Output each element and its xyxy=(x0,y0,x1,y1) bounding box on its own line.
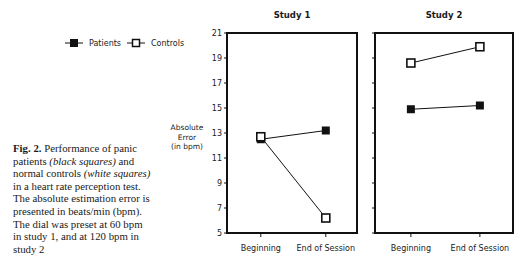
y-tick-label: 9 xyxy=(217,179,222,188)
open-square-marker-icon xyxy=(476,43,484,51)
x-tick-label: Beginning xyxy=(241,244,281,253)
y-tick-label: 13 xyxy=(212,129,222,138)
filled-square-marker-icon xyxy=(476,102,484,110)
plot-frame xyxy=(375,33,513,233)
series-line-patients xyxy=(411,106,480,110)
y-tick-label: 21 xyxy=(212,29,222,38)
y-tick-label: 11 xyxy=(212,154,222,163)
y-tick-label: 19 xyxy=(212,54,222,63)
charts-canvas: Study 1579111315171921BeginningEnd of Se… xyxy=(0,0,528,264)
open-square-marker-icon xyxy=(322,214,330,222)
plot-frame xyxy=(227,33,357,233)
chart-title: Study 2 xyxy=(426,10,463,20)
chart-study-1: Study 1579111315171921BeginningEnd of Se… xyxy=(212,10,357,253)
chart-title: Study 1 xyxy=(274,10,311,20)
y-tick-label: 15 xyxy=(212,104,222,113)
x-tick-label: Beginning xyxy=(391,244,431,253)
y-tick-label: 17 xyxy=(212,79,222,88)
series-line-patients xyxy=(261,131,326,140)
series-line-controls xyxy=(261,137,326,218)
open-square-marker-icon xyxy=(407,59,415,67)
chart-study-2: Study 2BeginningEnd of Session xyxy=(372,10,513,253)
x-tick-label: End of Session xyxy=(451,244,510,253)
y-tick-label: 5 xyxy=(217,229,222,238)
filled-square-marker-icon xyxy=(322,127,330,135)
y-tick-label: 7 xyxy=(217,204,222,213)
series-line-controls xyxy=(411,47,480,63)
filled-square-marker-icon xyxy=(407,105,415,113)
open-square-marker-icon xyxy=(257,133,265,141)
x-tick-label: End of Session xyxy=(297,244,356,253)
